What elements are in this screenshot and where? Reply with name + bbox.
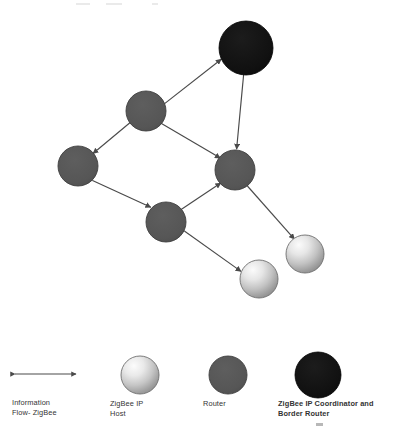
- edge-router-left-to-router-bottom: [93, 181, 151, 208]
- edge-router-center-right-to-host-upper-right: [247, 186, 294, 239]
- legend-router-swatch-icon: [209, 356, 247, 394]
- node-router-left[interactable]: [58, 146, 98, 186]
- scan-artifact: [76, 3, 90, 5]
- edge-coordinator-to-router-center-right: [237, 75, 244, 149]
- topology-canvas: [0, 0, 402, 440]
- edge-router-bottom-to-host-lower-left: [185, 231, 241, 271]
- node-router-top-left[interactable]: [126, 91, 166, 131]
- zigbee-topology-diagram: Information Flow- ZigBee ZigBee IP Host …: [0, 0, 402, 440]
- node-router-bottom[interactable]: [146, 202, 186, 242]
- edge-layer: [93, 59, 295, 271]
- legend-label-zigbee-ip-host: ZigBee IP Host: [110, 399, 190, 418]
- edge-router-top-left-to-router-center-right: [162, 124, 220, 158]
- node-coordinator[interactable]: [219, 21, 273, 75]
- legend-coordinator-swatch-icon: [295, 352, 341, 398]
- node-host-upper-right[interactable]: [286, 235, 324, 273]
- edge-router-bottom-to-router-center-right: [182, 183, 221, 209]
- legend-label-router: Router: [203, 399, 283, 409]
- node-router-center-right[interactable]: [215, 150, 255, 190]
- legend-label-zigbee-ip-coordinator-border-router: ZigBee IP Coordinator and Border Router: [278, 399, 402, 418]
- legend-symbol-layer: [15, 352, 341, 398]
- node-layer: [58, 21, 324, 298]
- scan-artifact: [316, 423, 323, 426]
- node-host-lower-left[interactable]: [240, 260, 278, 298]
- edge-router-top-left-to-router-left: [93, 123, 130, 154]
- edge-router-top-left-to-coordinator: [165, 59, 222, 103]
- scan-artifact: [152, 3, 158, 5]
- legend-host-swatch-icon: [121, 356, 159, 394]
- scan-artifact: [106, 3, 122, 5]
- legend-label-information-flow: Information Flow- ZigBee: [12, 398, 108, 417]
